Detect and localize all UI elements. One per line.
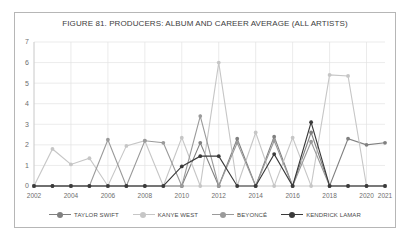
data-point <box>106 138 110 142</box>
data-point <box>254 131 258 135</box>
x-tick-label: 2020 <box>359 192 374 199</box>
data-point <box>365 143 369 147</box>
data-point <box>198 114 202 118</box>
y-tick-label: 2 <box>25 141 29 148</box>
y-tick-label: 5 <box>25 80 29 87</box>
data-point <box>198 184 202 188</box>
data-point <box>124 184 128 188</box>
x-tick-label: 2012 <box>212 192 227 199</box>
data-point <box>383 141 387 145</box>
data-point <box>51 184 55 188</box>
data-point <box>198 141 202 145</box>
x-tick-label: 2021 <box>378 192 393 199</box>
data-point <box>254 184 258 188</box>
chart-screenshot: FIGURE 81. PRODUCERS: ALBUM AND CAREER A… <box>0 0 409 238</box>
data-point <box>291 136 295 140</box>
legend-label: KANYE WEST <box>158 212 198 218</box>
chart-frame: FIGURE 81. PRODUCERS: ALBUM AND CAREER A… <box>14 12 396 228</box>
line-chart-plot: 0123456720022004200620082010201220142016… <box>15 13 397 229</box>
data-point <box>161 141 165 145</box>
data-point <box>272 184 276 188</box>
data-point <box>346 137 350 141</box>
x-tick-label: 2010 <box>175 192 190 199</box>
data-point <box>346 74 350 78</box>
data-point <box>309 120 313 124</box>
data-point <box>106 184 110 188</box>
x-tick-label: 2006 <box>101 192 116 199</box>
legend-item[interactable]: TAYLOR SWIFT <box>49 211 119 218</box>
data-point <box>143 184 147 188</box>
y-tick-label: 0 <box>25 182 29 189</box>
data-point <box>235 141 239 145</box>
legend-swatch-icon <box>212 211 234 218</box>
data-point <box>88 156 92 160</box>
data-point <box>124 144 128 148</box>
data-point <box>69 163 73 167</box>
data-point <box>217 154 221 158</box>
data-point <box>32 184 36 188</box>
x-tick-label: 2016 <box>285 192 300 199</box>
data-point <box>309 184 313 188</box>
legend-label: KENDRICK LAMAR <box>306 212 361 218</box>
data-point <box>235 137 239 141</box>
data-point <box>217 61 221 65</box>
x-tick-label: 2014 <box>248 192 263 199</box>
legend-item[interactable]: KANYE WEST <box>133 211 198 218</box>
y-tick-label: 3 <box>25 121 29 128</box>
data-point <box>180 136 184 140</box>
data-point <box>88 184 92 188</box>
data-point <box>235 184 239 188</box>
data-point <box>180 165 184 169</box>
legend-item[interactable]: BEYONCÉ <box>212 211 267 218</box>
data-point <box>69 184 73 188</box>
y-tick-label: 7 <box>25 38 29 45</box>
y-tick-label: 6 <box>25 59 29 66</box>
data-point <box>51 147 55 151</box>
data-point <box>198 154 202 158</box>
legend-swatch-icon <box>49 211 71 218</box>
data-point <box>346 184 350 188</box>
y-tick-label: 4 <box>25 100 29 107</box>
legend-item[interactable]: KENDRICK LAMAR <box>281 211 361 218</box>
data-point <box>309 140 313 144</box>
data-point <box>383 184 387 188</box>
x-tick-label: 2008 <box>138 192 153 199</box>
y-tick-label: 1 <box>25 162 29 169</box>
data-point <box>309 131 313 135</box>
data-point <box>180 184 184 188</box>
legend-label: TAYLOR SWIFT <box>74 212 119 218</box>
data-point <box>365 184 369 188</box>
x-tick-label: 2002 <box>27 192 42 199</box>
data-point <box>328 73 332 77</box>
legend-swatch-icon <box>133 211 155 218</box>
data-point <box>272 135 276 139</box>
data-point <box>217 184 221 188</box>
data-point <box>291 184 295 188</box>
series-line-3 <box>34 122 385 186</box>
data-point <box>272 152 276 156</box>
data-point <box>161 184 165 188</box>
x-tick-label: 2004 <box>64 192 79 199</box>
legend-swatch-icon <box>281 211 303 218</box>
chart-legend: TAYLOR SWIFTKANYE WESTBEYONCÉKENDRICK LA… <box>15 211 395 218</box>
data-point <box>272 139 276 143</box>
legend-label: BEYONCÉ <box>237 212 267 218</box>
x-tick-label: 2018 <box>322 192 337 199</box>
data-point <box>328 184 332 188</box>
data-point <box>143 139 147 143</box>
